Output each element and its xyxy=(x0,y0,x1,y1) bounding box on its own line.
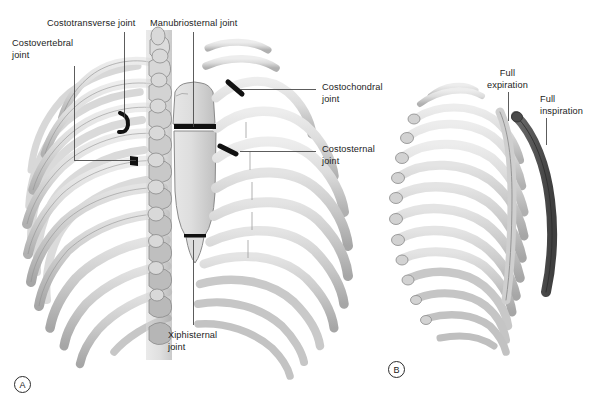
label-xiphisternal: Xiphisternal joint xyxy=(168,330,217,353)
label-costotransverse: Costotransverse joint xyxy=(47,18,135,30)
panel-id-a: A xyxy=(14,376,31,393)
label-full-expiration: Full expiration xyxy=(487,68,528,91)
vertebral-column xyxy=(146,27,172,360)
label-manubriosternal: Manubriosternal joint xyxy=(150,18,237,30)
xiphoid-process xyxy=(186,237,204,263)
panel-a-thoracic-cage xyxy=(27,27,348,376)
anatomy-illustration xyxy=(0,0,608,404)
costovertebral-joint-marker xyxy=(130,156,138,166)
figure-canvas: Costotransverse jointCostovertebral join… xyxy=(0,0,608,404)
panel-b-thoracic-cage xyxy=(390,85,553,352)
label-full-inspiration: Full inspiration xyxy=(540,94,583,117)
label-costovertebral: Costovertebral joint xyxy=(12,38,73,61)
sternum-body xyxy=(174,131,216,235)
xiphisternal-joint-marker xyxy=(184,234,206,237)
label-costochondral: Costochondral joint xyxy=(322,82,383,105)
panel-id-b: B xyxy=(388,361,405,378)
label-costosternal: Costosternal joint xyxy=(322,144,375,167)
manubrium xyxy=(173,82,215,124)
manubriosternal-joint-marker xyxy=(174,124,216,129)
